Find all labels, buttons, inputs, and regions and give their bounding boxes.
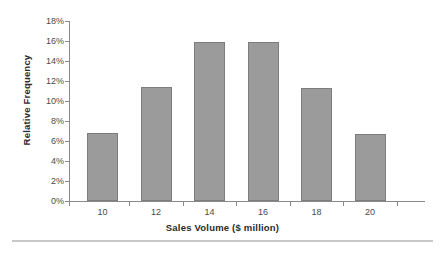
x-axis-tick-mark-origin [69,202,70,206]
y-axis-tick-label: 4% [30,156,64,166]
x-axis-line [69,201,425,202]
bar [194,42,225,201]
x-axis-tick-mark [290,202,291,206]
x-axis-tick-mark [343,202,344,206]
x-axis-title: Sales Volume ($ million) [0,222,445,233]
x-axis-tick-label: 12 [136,207,176,217]
bar [141,87,172,201]
y-axis-tick-label: 18% [30,16,64,26]
y-axis-tick-mark [65,81,69,82]
y-axis-tick-label: 16% [30,36,64,46]
x-axis-tick-mark [129,202,130,206]
y-axis-tick-label: 0% [30,196,64,206]
bar [301,88,332,201]
y-axis-tick-label: 14% [30,56,64,66]
y-axis-tick-mark [65,101,69,102]
y-axis-tick-label: 2% [30,176,64,186]
y-axis-tick-labels: 0%2%4%6%8%10%12%14%16%18% [28,0,64,253]
y-axis-tick-mark [65,121,69,122]
plot-area: 101214161820 [69,21,425,201]
y-axis-tick-label: 8% [30,116,64,126]
y-axis-tick-mark [65,41,69,42]
y-axis-tick-label: 6% [30,136,64,146]
bottom-divider [12,240,433,242]
bar [248,42,279,201]
x-axis-tick-mark [236,202,237,206]
x-axis-tick-label: 14 [190,207,230,217]
y-axis-tick-mark [65,161,69,162]
y-axis-tick-mark [65,141,69,142]
x-axis-tick-mark [397,202,398,206]
x-axis-tick-label: 16 [243,207,283,217]
y-axis-tick-mark [65,181,69,182]
bar [355,134,386,201]
histogram-figure: Relative Frequency 0%2%4%6%8%10%12%14%16… [0,0,445,253]
y-axis-tick-mark [65,61,69,62]
y-axis-tick-label: 10% [30,96,64,106]
x-axis-tick-label: 18 [297,207,337,217]
y-axis-tick-mark [65,21,69,22]
x-axis-tick-label: 20 [350,207,390,217]
x-axis-tick-label: 10 [83,207,123,217]
bar [87,133,118,201]
y-axis-line [69,21,70,202]
x-axis-tick-mark [183,202,184,206]
y-axis-tick-label: 12% [30,76,64,86]
